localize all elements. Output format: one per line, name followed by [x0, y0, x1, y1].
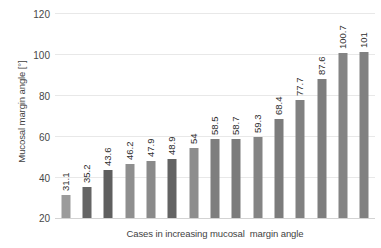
- bar-chart: Mucosal margin angle [°] 120 100 80 60 4…: [0, 0, 381, 248]
- bar-value-label: 47.9: [146, 138, 156, 157]
- bar-group[interactable]: 31.1: [55, 13, 76, 218]
- bar-value-label: 77.7: [296, 77, 306, 96]
- bar[interactable]: [189, 148, 198, 218]
- bar[interactable]: [146, 161, 155, 218]
- bar-value-label: 31.1: [61, 173, 71, 192]
- bar-group[interactable]: 48.9: [162, 13, 183, 218]
- bar-value-label: 46.2: [125, 142, 135, 161]
- x-axis-title: Cases in increasing mucosal margin angle: [55, 228, 375, 239]
- bar[interactable]: [61, 195, 70, 218]
- bar-group[interactable]: 77.7: [290, 13, 311, 218]
- bar-group[interactable]: 59.3: [247, 13, 268, 218]
- bar-group[interactable]: 87.6: [311, 13, 332, 218]
- bar[interactable]: [274, 119, 283, 218]
- bar-value-label: 100.7: [338, 25, 348, 49]
- y-tick-20: 20: [16, 214, 50, 224]
- bar-group[interactable]: 101: [354, 13, 375, 218]
- gridline-20: [55, 218, 375, 219]
- bar[interactable]: [232, 139, 241, 218]
- bar[interactable]: [317, 79, 326, 218]
- bar-value-label: 35.2: [82, 164, 92, 183]
- bar[interactable]: [168, 159, 177, 218]
- bar-group[interactable]: 47.9: [140, 13, 161, 218]
- y-tick-60: 60: [16, 133, 50, 143]
- bar-value-label: 54: [189, 134, 199, 145]
- bar[interactable]: [360, 52, 369, 218]
- bar-value-label: 43.6: [104, 147, 114, 166]
- bar-series: 31.135.243.646.247.948.95458.558.759.368…: [55, 13, 375, 218]
- bar-value-label: 101: [360, 32, 370, 48]
- bar-value-label: 59.3: [253, 115, 263, 134]
- bar-value-label: 48.9: [168, 136, 178, 155]
- bar[interactable]: [104, 170, 113, 218]
- bar-group[interactable]: 54: [183, 13, 204, 218]
- bar[interactable]: [338, 53, 347, 218]
- y-axis-tick-labels: 120 100 80 60 40 20: [16, 0, 50, 248]
- y-tick-100: 100: [16, 51, 50, 61]
- y-tick-120: 120: [16, 10, 50, 20]
- bar[interactable]: [253, 137, 262, 218]
- bar-group[interactable]: 35.2: [76, 13, 97, 218]
- bar-group[interactable]: 58.5: [204, 13, 225, 218]
- bar[interactable]: [125, 164, 134, 218]
- bar-value-label: 58.5: [210, 117, 220, 136]
- bar[interactable]: [296, 100, 305, 218]
- bar-group[interactable]: 68.4: [268, 13, 289, 218]
- bar[interactable]: [82, 187, 91, 218]
- y-tick-80: 80: [16, 92, 50, 102]
- bar-value-label: 68.4: [274, 96, 284, 115]
- bar-value-label: 58.7: [232, 116, 242, 135]
- plot-area: 31.135.243.646.247.948.95458.558.759.368…: [55, 13, 375, 218]
- bar-group[interactable]: 58.7: [226, 13, 247, 218]
- y-tick-40: 40: [16, 174, 50, 184]
- bar-value-label: 87.6: [317, 57, 327, 76]
- bar[interactable]: [210, 139, 219, 218]
- bar-group[interactable]: 46.2: [119, 13, 140, 218]
- bar-group[interactable]: 100.7: [332, 13, 353, 218]
- bar-group[interactable]: 43.6: [98, 13, 119, 218]
